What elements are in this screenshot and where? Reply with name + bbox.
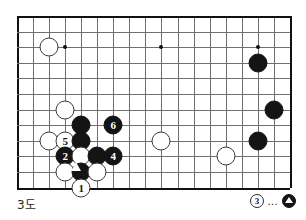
note-separator: … [266, 195, 280, 207]
triangle-icon [285, 197, 293, 203]
grid-line-horizontal [17, 16, 290, 18]
star-point [256, 45, 260, 49]
grid-line-vertical [194, 16, 195, 188]
grid-line-vertical [242, 16, 243, 188]
go-diagram-root: 65241 3도 3 … [0, 0, 306, 220]
stone-white[interactable] [152, 131, 171, 150]
stone-white[interactable] [56, 100, 75, 119]
caption-row: 3도 3 … [0, 192, 306, 220]
grid-line-vertical [290, 16, 292, 188]
grid-line-vertical [258, 16, 259, 188]
move-reference-note: 3 … [250, 194, 296, 208]
grid-line-vertical [178, 16, 179, 188]
grid-line-vertical [33, 16, 34, 188]
move-stone-4[interactable]: 4 [104, 147, 123, 166]
triangle-icon [71, 162, 81, 171]
grid-line-vertical [161, 16, 162, 188]
grid-line-vertical [17, 16, 19, 188]
grid-line-horizontal [17, 94, 290, 95]
move-stone-6[interactable]: 6 [104, 116, 123, 135]
stone-white[interactable] [216, 147, 235, 166]
grid-line-horizontal [17, 32, 290, 33]
go-board-area: 65241 [0, 0, 306, 192]
grid-line-horizontal [17, 125, 290, 126]
star-point [159, 45, 163, 49]
move-number-stone: 3 [250, 194, 264, 208]
triangle-marked-stone [282, 194, 296, 208]
goban-grid: 65241 [17, 16, 290, 188]
grid-line-horizontal [17, 188, 290, 190]
grid-line-vertical [145, 16, 146, 188]
stone-white[interactable] [40, 38, 59, 57]
star-point [63, 45, 67, 49]
grid-line-vertical [129, 16, 130, 188]
stone-black[interactable] [248, 131, 267, 150]
stone-black[interactable] [248, 53, 267, 72]
figure-label: 3도 [17, 195, 37, 212]
grid-line-horizontal [17, 78, 290, 79]
grid-line-vertical [210, 16, 211, 188]
stone-white[interactable] [88, 163, 107, 182]
stone-black[interactable] [264, 100, 283, 119]
